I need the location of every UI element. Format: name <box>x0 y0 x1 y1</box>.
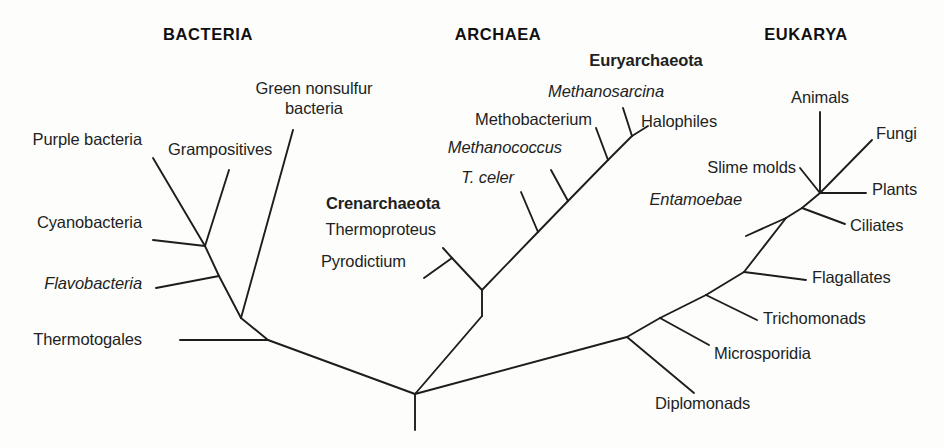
domain-header-archaea: ARCHAEA <box>448 25 548 44</box>
taxon-label-entamoebae: Entamoebae <box>632 190 742 209</box>
branch-euk-node4-to-euk-node5 <box>744 218 786 272</box>
branch-eury-node2-to-methanococcus-tip <box>551 170 568 201</box>
taxon-label-fungi: Fungi <box>876 124 917 143</box>
branch-euk-node2-to-euk-node3 <box>660 295 706 318</box>
taxon-label-t-celer: T. celer <box>400 168 514 187</box>
branch-eukarya-base-to-diplomonads-tip <box>627 337 694 393</box>
branch-bacteria-base-to-bacteria-node2 <box>241 318 268 340</box>
taxon-label-trichomonads: Trichomonads <box>763 309 866 328</box>
taxon-label-microsporidia: Microsporidia <box>714 344 811 363</box>
branch-euk-node7-to-slime-molds-tip <box>800 168 820 193</box>
branch-bacteria-node3-to-flavobacteria-tip <box>156 276 219 288</box>
taxon-label-methobacterium: Methobacterium <box>452 110 592 129</box>
branch-archaea-node-to-crenarch-node <box>452 258 482 290</box>
branch-euk-node7-to-fungi-tip <box>820 140 872 193</box>
branch-crenarch-node-to-thermoproteus-tip <box>443 248 452 258</box>
branch-root-node-to-archaea-base <box>415 316 482 394</box>
taxon-label-methanococcus: Methanococcus <box>396 138 562 157</box>
domain-header-bacteria: BACTERIA <box>160 25 256 44</box>
taxon-label-animals: Animals <box>783 88 857 107</box>
taxon-label-pyrodictium: Pyrodictium <box>288 252 406 271</box>
branch-bacteria-node4-to-purple-bacteria-tip <box>153 158 205 246</box>
taxon-label-thermoproteus: Thermoproteus <box>310 220 436 239</box>
taxon-label-green-nonsulfur-line1: Green nonsulfur <box>252 79 376 98</box>
taxon-label-plants: Plants <box>872 180 917 199</box>
taxon-label-green-nonsulfur-line2: bacteria <box>252 99 376 118</box>
branch-bacteria-node3-to-bacteria-node4 <box>205 246 219 276</box>
branch-eury-node3-to-methobacterium-tip <box>596 128 608 160</box>
branch-root-node-to-bacteria-base <box>268 340 415 394</box>
branch-euk-node6-to-euk-node7 <box>802 193 820 208</box>
branch-eukarya-base-to-euk-node2 <box>627 318 660 337</box>
group-label-euryarchaeota: Euryarchaeota <box>568 51 724 70</box>
branch-eury-node3-to-eury-node4 <box>608 136 632 160</box>
branch-crenarch-node-to-pyrodictium-tip <box>424 258 452 278</box>
taxon-label-cyanobacteria: Cyanobacteria <box>12 213 142 232</box>
branch-euk-node6-to-ciliates-tip <box>802 208 845 224</box>
branch-root-node-to-eukarya-base <box>415 337 627 394</box>
branch-bacteria-node2-to-bacteria-node3 <box>219 276 241 318</box>
branch-eury-node1-to-t-celer-tip <box>521 192 538 232</box>
branch-bacteria-node4-to-grampositives-tip <box>205 170 229 246</box>
phylogenetic-tree-figure: BACTERIA ARCHAEA EUKARYA Crenarchaeota E… <box>0 0 944 447</box>
branch-eury-node1-to-eury-node2 <box>538 201 568 232</box>
branch-euk-node4-to-flagallates-tip <box>744 272 806 280</box>
branch-eury-node2-to-eury-node3 <box>568 160 608 201</box>
branch-euk-node5-to-euk-node6 <box>786 208 802 218</box>
branch-euk-node3-to-euk-node4 <box>706 272 744 295</box>
taxon-label-halophiles: Halophiles <box>641 112 717 131</box>
taxon-label-methanosarcina: Methanosarcina <box>512 82 664 101</box>
taxon-label-slime-molds: Slime molds <box>706 158 796 177</box>
taxon-label-purple-bacteria: Purple bacteria <box>12 130 142 149</box>
taxon-label-thermotogales: Thermotogales <box>8 330 142 349</box>
taxon-label-grampositives: Grampositives <box>168 140 272 159</box>
taxon-label-flagallates: Flagallates <box>812 268 891 287</box>
branch-euk-node2-to-microsporidia-tip <box>660 318 709 345</box>
branch-eury-node4-to-methanosarcina-tip <box>623 108 632 136</box>
taxon-label-diplomonads: Diplomonads <box>655 394 750 413</box>
branch-bacteria-node4-to-cyanobacteria-tip <box>153 240 205 246</box>
domain-header-eukarya: EUKARYA <box>756 25 856 44</box>
branch-euk-node3-to-trichomonads-tip <box>706 295 757 320</box>
branch-archaea-node-to-eury-node1 <box>482 232 538 290</box>
group-label-crenarchaeota: Crenarchaeota <box>310 194 456 213</box>
taxon-label-flavobacteria: Flavobacteria <box>8 274 142 293</box>
taxon-label-ciliates: Ciliates <box>850 216 903 235</box>
